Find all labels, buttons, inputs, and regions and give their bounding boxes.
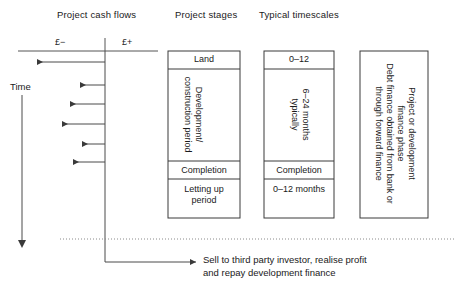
outcome-caption-line2: and repay development finance — [203, 266, 336, 279]
header-project-stages: Project stages — [175, 9, 237, 20]
stage-completion-label: Completion — [168, 165, 240, 176]
axis-label-time: Time — [10, 81, 31, 92]
finance-phase-line3: Debt finance obtained from bank or — [384, 51, 395, 217]
stage-development-line1: Development/ — [193, 69, 204, 161]
outcome-caption-line1: Sell to third party investor, realise pr… — [203, 253, 367, 266]
finance-phase-line1: Project or development — [406, 51, 417, 217]
cash-outflow-arrows — [37, 62, 105, 162]
time-axis-arrowhead — [18, 240, 26, 248]
stage-letting-line1: Letting up — [168, 184, 240, 195]
timescale-construction-line1: 6–24 months — [300, 69, 311, 161]
finance-phase-line2: finance phase — [395, 51, 406, 217]
axis-label-negative: £− — [55, 37, 65, 47]
timescale-completion-label: Completion — [264, 165, 334, 176]
timescale-construction-line2: typically — [289, 69, 300, 161]
timescale-land-duration: 0–12 — [264, 54, 334, 65]
header-project-cash-flows: Project cash flows — [57, 9, 136, 20]
timescale-letting-duration: 0–12 months — [264, 184, 334, 195]
header-typical-timescales: Typical timescales — [259, 9, 339, 20]
stage-letting-line2: period — [168, 195, 240, 206]
axis-label-positive: £+ — [122, 37, 132, 47]
development-cashflow-diagram: Project cash flows Project stages Typica… — [0, 0, 455, 289]
money-axis — [18, 38, 158, 51]
finance-phase-line4: through forward finance — [373, 51, 384, 217]
stage-land-label: Land — [168, 54, 240, 65]
stage-development-line2: construction period — [182, 69, 193, 161]
